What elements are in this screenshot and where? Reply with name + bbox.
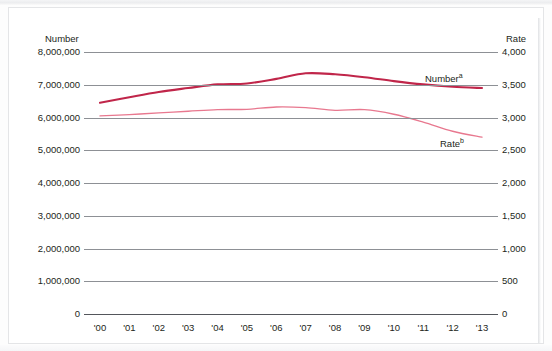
x-axis-tick-label: '13 bbox=[476, 323, 488, 333]
x-axis-tick-label: '04 bbox=[211, 323, 223, 333]
right-axis-tick-label: 1,500 bbox=[502, 211, 526, 221]
tick-stub-left bbox=[84, 183, 93, 184]
x-axis-tick-label: '02 bbox=[153, 323, 165, 333]
left-axis-tick-label: 0 bbox=[75, 309, 80, 319]
right-axis-tick-label: 1,000 bbox=[502, 244, 526, 254]
tick-stub-right bbox=[489, 52, 498, 53]
right-axis-tick-label: 500 bbox=[502, 276, 518, 286]
tick-stub-left bbox=[84, 249, 93, 250]
x-axis-tick-label: '03 bbox=[182, 323, 194, 333]
chart-card: Number Rate Numbera Rateb 001,000,000500… bbox=[8, 7, 544, 344]
x-axis-tick-label: '06 bbox=[270, 323, 282, 333]
gridline bbox=[93, 85, 489, 86]
series-line-rate bbox=[100, 107, 482, 137]
left-axis-tick-label: 5,000,000 bbox=[38, 145, 80, 155]
series-line-number bbox=[100, 73, 482, 103]
left-axis-tick-label: 1,000,000 bbox=[38, 276, 80, 286]
x-axis-tick-label: '05 bbox=[241, 323, 253, 333]
x-axis-tick-label: '08 bbox=[329, 323, 341, 333]
left-axis-tick-label: 7,000,000 bbox=[38, 80, 80, 90]
tick-stub-right bbox=[489, 183, 498, 184]
x-axis-tick-label: '10 bbox=[388, 323, 400, 333]
x-axis-tick-label: '00 bbox=[94, 323, 106, 333]
gridline bbox=[93, 52, 489, 53]
tick-stub-left bbox=[84, 118, 93, 119]
right-axis-tick-label: 2,500 bbox=[502, 145, 526, 155]
left-axis-tick-label: 4,000,000 bbox=[38, 178, 80, 188]
left-axis-tick-label: 3,000,000 bbox=[38, 211, 80, 221]
tick-stub-right bbox=[489, 150, 498, 151]
tick-stub-right bbox=[489, 118, 498, 119]
plot-area: 001,000,0005002,000,0001,0003,000,0001,5… bbox=[93, 52, 489, 314]
tick-stub-right bbox=[489, 281, 498, 282]
gridline bbox=[93, 150, 489, 151]
right-axis-tick-label: 3,000 bbox=[502, 113, 526, 123]
page-edge-artifact-top bbox=[0, 0, 552, 5]
tick-stub-right bbox=[489, 216, 498, 217]
right-axis-tick-label: 3,500 bbox=[502, 80, 526, 90]
left-axis-title: Number bbox=[45, 34, 79, 44]
right-axis-tick-label: 0 bbox=[502, 309, 507, 319]
tick-stub-left bbox=[84, 314, 93, 315]
left-axis-tick-label: 2,000,000 bbox=[38, 244, 80, 254]
tick-stub-left bbox=[84, 281, 93, 282]
x-axis-tick-label: '07 bbox=[299, 323, 311, 333]
tick-stub-right bbox=[489, 249, 498, 250]
tick-stub-left bbox=[84, 150, 93, 151]
gridline bbox=[93, 118, 489, 119]
x-axis-tick-label: '01 bbox=[123, 323, 135, 333]
x-axis-tick-label: '11 bbox=[417, 323, 429, 333]
tick-stub-left bbox=[84, 52, 93, 53]
gridline bbox=[93, 216, 489, 217]
x-axis-tick-label: '09 bbox=[358, 323, 370, 333]
right-axis-tick-label: 4,000 bbox=[502, 47, 526, 57]
tick-stub-right bbox=[489, 314, 498, 315]
tick-stub-right bbox=[489, 85, 498, 86]
right-axis-tick-label: 2,000 bbox=[502, 178, 526, 188]
left-axis-tick-label: 8,000,000 bbox=[38, 47, 80, 57]
left-axis-tick-label: 6,000,000 bbox=[38, 113, 80, 123]
tick-stub-left bbox=[84, 85, 93, 86]
right-axis-title: Rate bbox=[506, 34, 526, 44]
gridline bbox=[93, 249, 489, 250]
x-axis-tick-label: '12 bbox=[446, 323, 458, 333]
figure-page: Number Rate Numbera Rateb 001,000,000500… bbox=[0, 0, 552, 351]
gridline bbox=[93, 281, 489, 282]
card-shadow bbox=[538, 18, 541, 343]
tick-stub-left bbox=[84, 216, 93, 217]
x-axis-line bbox=[93, 314, 489, 315]
gridline bbox=[93, 183, 489, 184]
page-edge-artifact-bottom bbox=[0, 345, 552, 351]
